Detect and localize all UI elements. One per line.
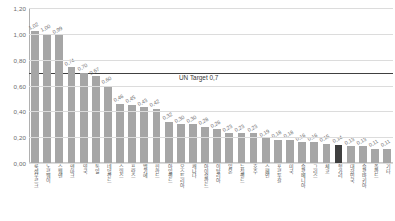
- bar-value-label: 0,14: [331, 134, 343, 144]
- x-axis-tick: 폴란드: [369, 164, 381, 221]
- x-axis-tick: 핀란드: [150, 164, 162, 221]
- bar: [140, 107, 148, 163]
- gridline: [29, 60, 393, 61]
- bar-value-label: 0,23: [246, 123, 258, 133]
- bar: [201, 127, 209, 163]
- y-axis-tick-label: 1,20: [14, 5, 26, 12]
- x-axis-tick: 뉴질랜드: [235, 164, 247, 221]
- bar: [68, 67, 76, 163]
- x-axis-tick: 캐나다: [187, 164, 199, 221]
- x-axis-tick-label: 벨기에: [142, 164, 147, 221]
- bar: [262, 138, 270, 163]
- bar: [274, 140, 282, 163]
- x-axis-tick-label: 뉴질랜드: [239, 164, 244, 221]
- x-axis-tick: 이탈리아: [211, 164, 223, 221]
- bar: [92, 76, 100, 163]
- x-axis-tick: 프랑스: [126, 164, 138, 221]
- x-axis-tick-label: 체코: [324, 164, 329, 221]
- x-axis-tick-label: 아일랜드: [166, 164, 171, 221]
- bar: [323, 144, 331, 163]
- x-axis-tick-label: 스웨덴: [57, 164, 62, 221]
- bar: [116, 104, 124, 163]
- gridline: [29, 86, 393, 87]
- x-axis-tick: 룩셈부르크: [29, 164, 41, 221]
- x-axis-tick: 벨기에: [138, 164, 150, 221]
- x-axis-tick: 노르웨이: [41, 164, 53, 221]
- x-axis-tick-label: 영국: [81, 164, 86, 221]
- bar-value-label: 0,42: [149, 98, 161, 108]
- x-axis-tick-label: 룩셈부르크: [33, 164, 38, 221]
- bar-value-label: 0,45: [125, 94, 137, 104]
- bar: [286, 140, 294, 163]
- bar: [165, 122, 173, 163]
- x-axis-tick: 네덜란드: [102, 164, 114, 221]
- x-axis-tick: 오스트리아: [175, 164, 187, 221]
- x-axis-tick-label: 일본: [227, 164, 232, 221]
- x-axis-tick-label: 캐나다: [190, 164, 195, 221]
- bar-value-label: 0,11: [380, 138, 392, 148]
- x-axis-tick-label: 독일: [93, 164, 98, 221]
- bar-value-label: 0,30: [185, 114, 197, 124]
- x-axis-tick: 영국: [78, 164, 90, 221]
- bar-value-label: 0,28: [197, 116, 209, 126]
- x-axis-tick: 기타: [381, 164, 393, 221]
- x-axis-tick: 아일랜드: [163, 164, 175, 221]
- x-axis-tick: 그리스: [308, 164, 320, 221]
- x-axis-tick: 덴마크: [65, 164, 77, 221]
- x-axis-tick-label: 아이슬란드: [203, 164, 208, 221]
- x-axis-tick-label: 미국: [288, 164, 293, 221]
- bar-value-label: 0,43: [137, 97, 149, 107]
- gridline: [29, 8, 393, 9]
- y-axis-tick-label: 0,80: [14, 56, 26, 63]
- y-axis: 0,000,200,400,600,801,001,20: [0, 0, 26, 221]
- bar-value-label: 1,02: [28, 21, 40, 31]
- x-axis-tick-label: 이탈리아: [215, 164, 220, 221]
- bar: [310, 142, 318, 163]
- x-axis-tick: 미국: [284, 164, 296, 221]
- bar-value-label: 0,74: [64, 57, 76, 67]
- bar-value-label: 1,00: [40, 23, 52, 33]
- x-axis-tick: 체코: [320, 164, 332, 221]
- x-axis-tick-label: 헝가리: [336, 164, 341, 221]
- bar: [104, 86, 112, 164]
- x-axis-tick-label: 프랑스: [130, 164, 135, 221]
- bar-value-label: 0,46: [112, 93, 124, 103]
- x-axis-tick-label: 폴란드: [373, 164, 378, 221]
- plot-area: UN Target 0,7 1,021,000,990,740,700,670,…: [29, 8, 393, 163]
- x-axis-tick-label: 호주: [251, 164, 256, 221]
- x-axis-tick: 독일: [90, 164, 102, 221]
- x-axis-tick-label: 스위스: [118, 164, 123, 221]
- chart-container: 0,000,200,400,600,801,001,20 UN Target 0…: [0, 0, 395, 221]
- x-axis-tick-label: 스페인: [263, 164, 268, 221]
- y-axis-tick-label: 1,00: [14, 30, 26, 37]
- gridline: [29, 34, 393, 35]
- bar-value-label: 0,70: [76, 62, 88, 72]
- x-axis-tick: 대한민국: [345, 164, 357, 221]
- x-axis: 룩셈부르크노르웨이스웨덴덴마크영국독일네덜란드스위스프랑스벨기에핀란드아일랜드오…: [29, 164, 393, 221]
- bar: [213, 129, 221, 163]
- x-axis-tick-label: 오스트리아: [178, 164, 183, 221]
- x-axis-tick-label: 슬로바키아: [360, 164, 365, 221]
- bar: [55, 35, 63, 163]
- bar: [128, 105, 136, 163]
- x-axis-tick: 슬로베니아: [296, 164, 308, 221]
- bar: [347, 146, 355, 163]
- x-axis-tick-label: 핀란드: [154, 164, 159, 221]
- x-axis-tick: 스웨덴: [53, 164, 65, 221]
- bar: [31, 31, 39, 163]
- bar-value-label: 0,30: [173, 114, 185, 124]
- x-axis-tick-label: 네덜란드: [105, 164, 110, 221]
- bar-value-label: 0,26: [210, 119, 222, 129]
- x-axis-tick-label: 대한민국: [348, 164, 353, 221]
- bar: [359, 146, 367, 163]
- gridline: [29, 137, 393, 138]
- x-axis-tick: 스위스: [114, 164, 126, 221]
- bar-value-label: 0,23: [222, 123, 234, 133]
- bar: [298, 142, 306, 163]
- bar-value-label: 0,60: [100, 75, 112, 85]
- x-axis-tick-label: 노르웨이: [45, 164, 50, 221]
- x-axis-tick: 포르투갈: [272, 164, 284, 221]
- x-axis-tick-label: 기타: [385, 164, 390, 221]
- y-axis-tick-label: 0,40: [14, 108, 26, 115]
- x-axis-tick-label: 덴마크: [69, 164, 74, 221]
